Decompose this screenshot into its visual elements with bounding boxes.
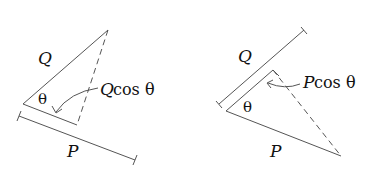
q-dimension-tick-end [301, 27, 307, 34]
label-p-right: P [269, 141, 282, 161]
projection-arrow-curve [56, 88, 98, 112]
foot-tick [273, 70, 279, 76]
label-projection-rest-left: cos θ [113, 80, 155, 99]
label-theta-right: θ [243, 98, 252, 116]
vector-q-line [23, 30, 108, 104]
perpendicular-dashed-line [77, 30, 108, 125]
label-q-right: Q [238, 46, 252, 66]
q-dimension-line [219, 30, 304, 104]
label-q-left: Q [38, 48, 52, 68]
label-p-left: P [66, 141, 79, 161]
label-projection-rest-right: cos θ [314, 73, 356, 92]
label-projection-var-left: Q [100, 79, 114, 99]
projection-arrow-curve [268, 83, 300, 87]
diagram-canvas: Q θ Q cos θ P Q θ P cos θ P [0, 0, 386, 183]
label-theta-left: θ [38, 90, 47, 108]
vector-p-base-line [23, 104, 77, 125]
